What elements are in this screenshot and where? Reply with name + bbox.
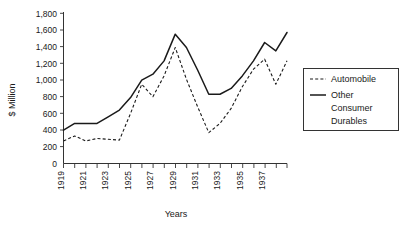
line-chart: $ Million 1,800 1,600 1,400 1,200 1,000 …	[0, 0, 405, 228]
x-tick-label: 1921	[78, 171, 88, 190]
y-tick-label: 1,200	[36, 59, 58, 69]
y-tick-label: 0	[52, 159, 57, 169]
x-tick-label: 1923	[100, 171, 110, 190]
y-tick-label: 800	[43, 92, 57, 102]
y-axis-title: $ Million	[7, 83, 17, 116]
legend-label-durables: Durables	[331, 116, 368, 126]
x-axis-title: Years	[165, 209, 188, 219]
legend-label-automobile: Automobile	[331, 74, 376, 84]
y-tick-label: 1,000	[36, 75, 58, 85]
x-tick-label: 1919	[56, 171, 66, 190]
y-axis-title-text: $ Million	[7, 83, 17, 116]
y-axis-ticks: 1,800 1,600 1,400 1,200 1,000 800 600 40…	[36, 9, 64, 169]
x-tick-label: 1927	[145, 171, 155, 190]
x-axis-labels: 1919 1921 1923 1925 1927 1929 1931 1933 …	[56, 171, 268, 190]
chart-figure: $ Million 1,800 1,600 1,400 1,200 1,000 …	[0, 0, 405, 228]
y-tick-label: 1,600	[36, 25, 58, 35]
y-tick-label: 1,400	[36, 42, 58, 52]
legend-label-consumer: Consumer	[331, 103, 373, 113]
x-tick-label: 1931	[190, 171, 200, 190]
x-tick-label: 1929	[168, 171, 178, 190]
plot-series	[64, 32, 288, 140]
x-tick-label: 1925	[123, 171, 133, 190]
x-tick-label: 1937	[257, 171, 267, 190]
y-tick-label: 1,800	[36, 9, 58, 19]
x-axis-ticks	[64, 164, 288, 169]
x-tick-label: 1935	[235, 171, 245, 190]
legend: Automobile Other Consumer Durables	[304, 69, 399, 131]
y-tick-label: 600	[43, 109, 57, 119]
x-tick-label: 1933	[212, 171, 222, 190]
y-tick-label: 400	[43, 125, 57, 135]
y-tick-label: 200	[43, 142, 57, 152]
legend-label-other: Other	[331, 90, 354, 100]
